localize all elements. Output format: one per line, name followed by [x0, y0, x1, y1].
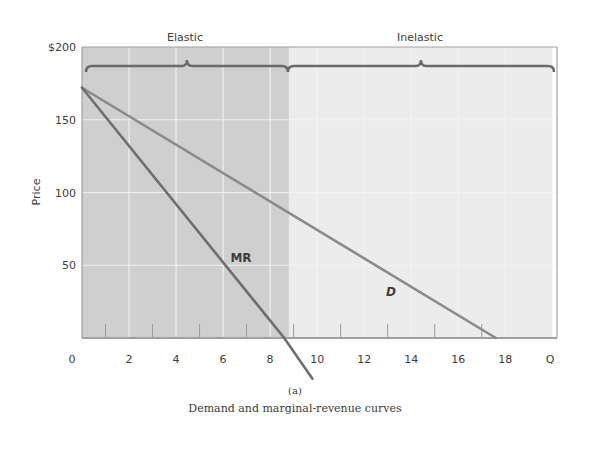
y-tick-label: 150: [55, 114, 76, 127]
y-axis-ticks: $20015010050: [48, 41, 76, 272]
x-tick-label: 2: [126, 353, 133, 366]
y-tick-label: 100: [55, 187, 76, 200]
x-tick-label: 8: [267, 353, 274, 366]
y-tick-label: $200: [48, 41, 76, 54]
panel-label: (a): [0, 385, 590, 396]
y-tick-label: 50: [62, 259, 76, 272]
elastic-label: Elastic: [167, 31, 203, 44]
x-tick-label: 6: [220, 353, 227, 366]
x-tick-label: 16: [451, 353, 465, 366]
chart-caption: Demand and marginal-revenue curves: [0, 402, 590, 415]
x-axis-ticks: 024681012141618Q: [69, 353, 555, 366]
demand-curve-label: D: [386, 285, 396, 299]
y-axis-label: Price: [30, 178, 43, 205]
x-tick-label: 12: [357, 353, 371, 366]
x-tick-label: Q: [546, 353, 555, 366]
x-tick-label: 14: [404, 353, 418, 366]
x-tick-label: 0: [69, 353, 76, 366]
inelastic-label: Inelastic: [397, 31, 443, 44]
mr-curve-label: MR: [230, 251, 251, 265]
x-tick-label: 4: [173, 353, 180, 366]
x-tick-label: 10: [310, 353, 324, 366]
x-tick-label: 18: [498, 353, 512, 366]
